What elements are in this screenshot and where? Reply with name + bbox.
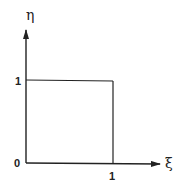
xi-axis — [26, 163, 160, 164]
unit-square-diagram: η ξ 0 1 1 — [0, 0, 185, 187]
y-tick-label-1: 1 — [15, 75, 21, 87]
eta-axis-label: η — [26, 7, 34, 23]
square-top-edge — [26, 80, 113, 81]
x-tick-label-1: 1 — [109, 170, 115, 182]
xi-axis-label: ξ — [165, 155, 173, 171]
origin-label: 0 — [14, 157, 20, 169]
